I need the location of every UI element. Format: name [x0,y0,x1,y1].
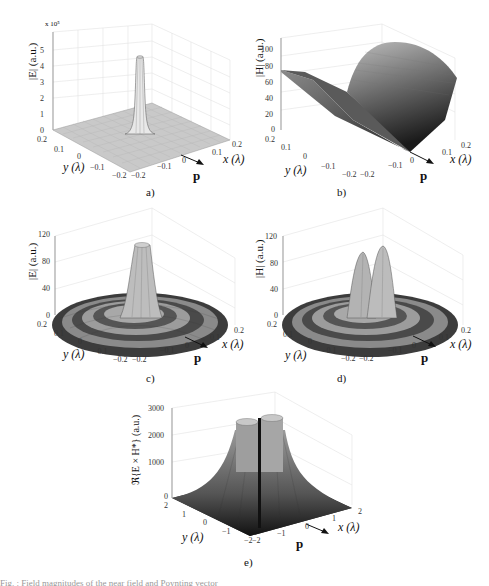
y-tick: 0.2 [37,320,47,329]
z-tick: 2000 [148,431,164,440]
x-axis-label: x (λ) [450,337,472,352]
x-tick: −0.1 [160,346,175,355]
x-tick: 0 [412,341,416,350]
figure-footer-clipped: Fig. : Field magnitudes of the near fiel… [0,578,489,586]
z-tick: 20 [265,110,273,119]
z-tick: 0 [40,126,44,135]
z-axis-label: |E| (a.u.) [26,43,38,80]
y-tick: −1 [222,527,231,536]
x-tick: 0.2 [232,140,242,149]
z-tick: 120 [265,232,277,241]
x-tick: −0.1 [388,346,403,355]
x-tick: 0 [305,522,309,531]
x-tick: −1 [277,529,286,538]
z-multiplier: x 10⁵ [45,20,60,28]
y-axis-label: y (λ) [63,347,85,362]
y-tick: 1 [182,510,186,519]
z-tick: 3000 [148,404,164,413]
z-tick: 120 [38,230,50,239]
surface-plot-a [0,0,245,200]
x-tick: 0.1 [439,333,449,342]
y-tick: 0 [303,152,307,161]
x-tick: 0.2 [461,326,471,335]
x-axis-label: x (λ) [338,520,360,535]
z-tick: 5 [40,46,44,55]
z-tick: 80 [265,62,273,71]
z-tick: 1000 [148,458,164,467]
p-vector-label: p [194,350,201,366]
z-tick: 0 [46,311,50,320]
x-axis-label: x (λ) [222,337,244,352]
x-tick: 0 [410,156,414,165]
x-tick: 0.2 [234,326,244,335]
y-tick: 0.2 [37,135,47,144]
x-tick: 0.2 [461,141,471,150]
x-tick: 0.1 [212,148,222,157]
y-tick: −0.1 [322,346,337,355]
y-axis-label: y (λ) [285,348,307,363]
x-tick: −0.2 [360,170,375,179]
z-tick: 0 [164,492,168,501]
z-tick: 4 [40,62,44,71]
y-tick: −0.2 [113,355,128,364]
x-axis-label: x (λ) [450,152,472,167]
x-tick: −0.2 [131,171,146,180]
y-axis-label: y (λ) [182,530,204,545]
panel-caption: d) [337,372,346,384]
panel-e: ℜ{E × H*} (a.u.) 3000 2000 1000 0 2 1 0 … [100,390,400,580]
panel-caption: c) [146,372,155,384]
y-axis-label: y (λ) [63,160,85,175]
z-tick: 3 [40,78,44,87]
p-vector-label: p [193,168,200,184]
x-tick: −0.1 [388,161,403,170]
panel-caption: a) [146,186,155,198]
panel-caption: e) [244,556,253,568]
y-tick: −0.1 [93,347,108,356]
y-tick: 0.1 [281,143,291,152]
x-tick: −2 [252,536,261,545]
z-tick: 40 [42,284,50,293]
z-tick: 80 [270,259,278,268]
panel-c: |E| (a.u.) 120 80 40 0 0.2 0.1 0 −0.1 −0… [0,200,245,390]
x-tick: 2 [358,507,362,516]
y-tick: −0.2 [341,354,356,363]
y-tick: 0 [78,337,82,346]
x-tick: 0 [185,341,189,350]
y-tick: 0 [308,337,312,346]
z-axis-label: ℜ{E × H*} (a.u.) [130,415,141,485]
z-tick: 100 [261,45,273,54]
x-tick: 0.1 [210,333,220,342]
z-axis-label: |E| (a.u.) [26,243,38,280]
x-tick: −0.2 [359,354,374,363]
y-tick: 0 [203,518,207,527]
y-tick: 0.2 [265,135,275,144]
panel-a: x 10⁵ |E| (a.u.) 5 4 3 2 1 0 0.2 0.1 0 −… [0,0,245,200]
x-tick: −0.2 [132,355,147,364]
x-tick: 1 [332,514,336,523]
x-tick: 0 [182,156,186,165]
z-tick: 40 [270,285,278,294]
panel-b: |H| (a.u.) 100 80 60 40 20 0 0.2 0.1 0 −… [245,0,489,200]
z-axis-label: |H| (a.u.) [253,240,265,278]
z-tick: 0 [271,125,275,134]
x-tick: −0.1 [157,162,172,171]
z-tick: 0 [274,311,278,320]
p-vector-label: p [421,350,428,366]
y-tick: 2 [164,501,168,510]
p-vector-label: p [420,168,427,184]
panel-d: |H| (a.u.) 120 80 40 0 0.2 0.1 0 −0.1 −0… [245,200,489,390]
z-tick: 1 [40,110,44,119]
y-tick: 0.2 [267,320,277,329]
p-vector-label: p [296,536,303,552]
x-axis-label: x (λ) [223,152,245,167]
y-tick: −0.2 [112,171,127,180]
z-tick: 80 [42,257,50,266]
y-tick: −0.2 [342,170,357,179]
y-tick: 0.1 [54,329,64,338]
z-tick: 40 [265,94,273,103]
z-tick: 2 [40,94,44,103]
y-tick: −0.1 [90,163,105,172]
z-tick: 60 [265,78,273,87]
y-tick: −0.1 [321,162,336,171]
y-axis-label: y (λ) [285,163,307,178]
